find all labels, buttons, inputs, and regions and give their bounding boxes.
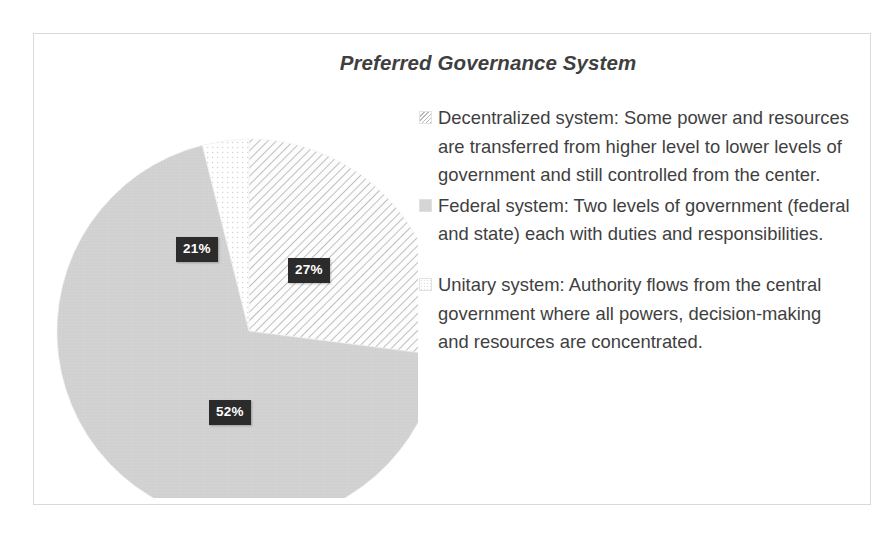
legend-item-label: Federal system: Two levels of government… [438,192,853,249]
pie-label-federal: 52% [209,400,251,425]
pie-chart: 21% 27% 52% [56,106,418,498]
legend-item-label: Unitary system: Authority flows from the… [438,271,853,357]
pie-slice-decentralized[interactable] [249,139,418,355]
legend-item-decentralized[interactable]: Decentralized system: Some power and res… [419,104,853,190]
pie-label-unitary: 21% [176,237,218,262]
chart-title: Preferred Governance System [34,51,870,75]
hatch-swatch-icon [419,111,432,124]
legend-item-label: Decentralized system: Some power and res… [438,104,853,190]
dotted-swatch-icon [419,278,432,291]
pie-label-decentralized: 27% [288,258,330,283]
pie-svg [56,106,418,498]
legend-item-unitary[interactable]: Unitary system: Authority flows from the… [419,271,853,357]
legend-item-federal[interactable]: Federal system: Two levels of government… [419,192,853,249]
chart-title-text: Preferred Governance System [268,51,637,75]
chart-legend: Decentralized system: Some power and res… [419,104,853,359]
chart-frame: Preferred Governance System [33,33,871,505]
solid-swatch-icon [419,199,432,212]
